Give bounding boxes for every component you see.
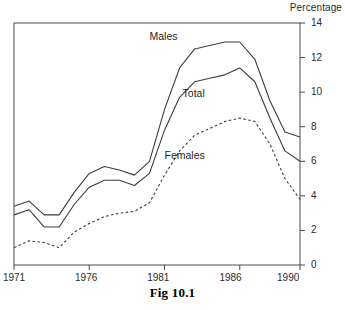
series-paths-group [14, 42, 300, 248]
series-label-males: Males [149, 30, 177, 42]
y-tick-label: 6 [311, 155, 333, 166]
plot-frame [14, 23, 300, 265]
y-axis-tick-marks [300, 23, 305, 265]
x-tick-label: 1976 [66, 272, 106, 283]
series-line-total [14, 68, 300, 227]
y-tick-label: 2 [311, 224, 333, 235]
x-tick-label: 1971 [0, 272, 34, 283]
y-tick-label: 8 [311, 121, 333, 132]
y-tick-label: 0 [311, 259, 333, 270]
y-tick-label: 10 [311, 86, 333, 97]
plot-border [14, 23, 300, 265]
x-tick-label: 1981 [138, 272, 178, 283]
y-tick-label: 14 [311, 17, 333, 28]
series-label-females: Females [165, 149, 205, 161]
figure-caption: Fig 10.1 [0, 285, 345, 301]
x-tick-label: 1986 [211, 272, 251, 283]
series-label-total: Total [183, 87, 205, 99]
y-tick-label: 4 [311, 190, 333, 201]
figure-container: Percentage 14121086420 19711976198119861… [0, 0, 345, 310]
series-line-females [14, 118, 300, 248]
x-tick-label: 1990 [268, 272, 308, 283]
y-tick-label: 12 [311, 52, 333, 63]
x-axis-tick-marks [14, 265, 300, 270]
